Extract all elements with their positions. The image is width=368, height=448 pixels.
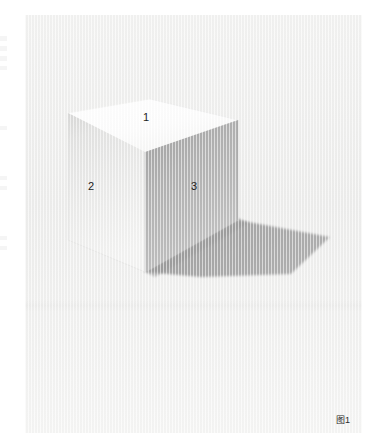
- edge-mark: [0, 246, 7, 250]
- cube-face-label-top: 1: [143, 112, 149, 123]
- edge-mark: [0, 66, 7, 70]
- edge-mark: [0, 126, 7, 130]
- edge-mark: [0, 46, 7, 51]
- cube-illustration: [25, 15, 362, 433]
- figure-root: 1 2 3 图1: [0, 0, 368, 448]
- figure-caption: 图1: [336, 416, 350, 425]
- edge-mark: [0, 36, 7, 41]
- cube-face-label-left: 2: [88, 181, 94, 192]
- edge-mark: [0, 236, 7, 240]
- edge-mark: [0, 186, 7, 190]
- figure-image-panel: 1 2 3: [25, 15, 362, 433]
- edge-mark: [0, 176, 7, 180]
- cube-face-label-right: 3: [191, 181, 197, 192]
- edge-mark: [0, 56, 7, 61]
